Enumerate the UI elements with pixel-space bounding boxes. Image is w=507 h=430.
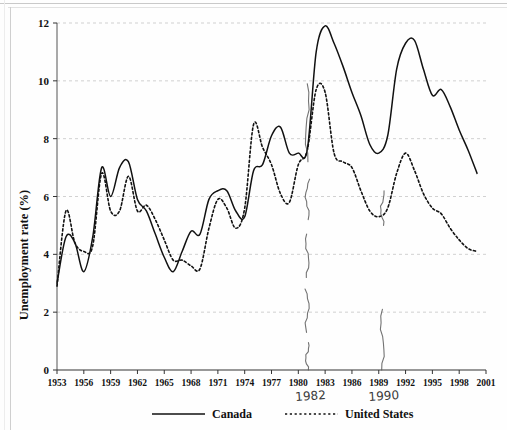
x-tick-label-1989: 1989 [369, 378, 388, 388]
y-axis-title: Unemployment rate (%) [17, 190, 31, 321]
handwritten-vline-1982-segment-0 [305, 84, 309, 162]
handwritten-vline-1982-segment-2 [306, 234, 309, 277]
x-tick-label-1953: 1953 [48, 378, 67, 388]
y-axis: 024681012 [38, 17, 57, 376]
y-tick-label-2: 2 [44, 306, 50, 318]
chart-legend: Canada United States [152, 407, 414, 421]
series-line-canada [57, 26, 477, 283]
x-tick-label-1968: 1968 [182, 378, 201, 388]
legend-label-canada: Canada [212, 407, 252, 421]
x-tick-label-1965: 1965 [155, 378, 174, 388]
x-tick-label-1962: 1962 [128, 378, 147, 388]
handwritten-vline-1982-segment-4 [306, 343, 309, 370]
x-tick-label-1986: 1986 [342, 378, 361, 388]
handwritten-year-1990: 1990 [368, 388, 399, 404]
x-tick-label-1995: 1995 [423, 378, 442, 388]
series-line-united-states [57, 83, 477, 286]
y-tick-label-10: 10 [38, 75, 50, 87]
x-axis: 1953195619591962196519681971197419771980… [48, 370, 496, 388]
handwritten-vline-1990-segment-0 [380, 191, 384, 226]
grid-lines [57, 23, 486, 312]
data-series [57, 26, 477, 286]
handwritten-year-1982: 1982 [295, 388, 326, 404]
x-tick-label-1998: 1998 [450, 378, 469, 388]
x-tick-label-1992: 1992 [396, 378, 415, 388]
unemployment-rate-line-chart: 024681012 195319561959196219651968197119… [0, 0, 507, 430]
y-tick-label-8: 8 [44, 133, 50, 145]
x-tick-label-1956: 1956 [74, 378, 93, 388]
x-tick-label-1980: 1980 [289, 378, 308, 388]
y-tick-label-12: 12 [38, 17, 50, 29]
handwritten-vline-1990-segment-1 [380, 309, 384, 370]
x-tick-label-2001: 2001 [477, 378, 496, 388]
x-tick-label-1971: 1971 [208, 378, 227, 388]
y-tick-label-0: 0 [44, 364, 50, 376]
x-tick-label-1977: 1977 [262, 378, 281, 388]
legend-label-united-states: United States [345, 407, 414, 421]
x-tick-label-1983: 1983 [316, 378, 335, 388]
chart-canvas: 024681012 195319561959196219651968197119… [0, 0, 507, 430]
x-tick-label-1974: 1974 [235, 378, 254, 388]
handwritten-vline-1982-segment-1 [305, 179, 310, 219]
y-tick-label-6: 6 [44, 191, 50, 203]
handwritten-vline-1982-segment-3 [305, 289, 309, 332]
y-tick-label-4: 4 [44, 248, 50, 260]
x-tick-label-1959: 1959 [101, 378, 120, 388]
